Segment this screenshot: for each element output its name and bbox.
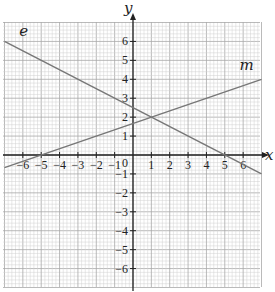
y-tick-label: −6	[115, 262, 128, 276]
y-axis-label: y	[123, 0, 133, 17]
y-tick-label: −3	[115, 205, 128, 219]
x-axis-label: x	[265, 146, 274, 164]
x-tick-label: −4	[53, 158, 66, 172]
x-tick-label: −2	[90, 158, 103, 172]
origin-label: 0	[122, 156, 128, 170]
x-tick-label: −3	[72, 158, 85, 172]
x-tick-label: −5	[35, 158, 48, 172]
y-tick-label: 1	[122, 129, 128, 143]
y-tick-label: 4	[122, 72, 128, 86]
x-tick-label: 5	[222, 158, 228, 172]
coordinate-plane: xy−6−5−4−3−2−1123456−6−5−4−3−2−11234560e…	[0, 0, 275, 292]
x-tick-label: 4	[203, 158, 209, 172]
y-tick-label: −5	[115, 243, 128, 257]
y-tick-label: −4	[115, 224, 128, 238]
y-tick-label: −2	[115, 186, 128, 200]
y-tick-label: 5	[122, 53, 128, 67]
line-label-m: m	[239, 56, 253, 74]
x-tick-label: 2	[167, 158, 173, 172]
x-tick-label: 3	[185, 158, 191, 172]
y-tick-label: 2	[122, 110, 128, 124]
line-label-e: e	[19, 22, 28, 40]
y-tick-label: 6	[122, 34, 128, 48]
x-tick-label: 1	[148, 158, 154, 172]
